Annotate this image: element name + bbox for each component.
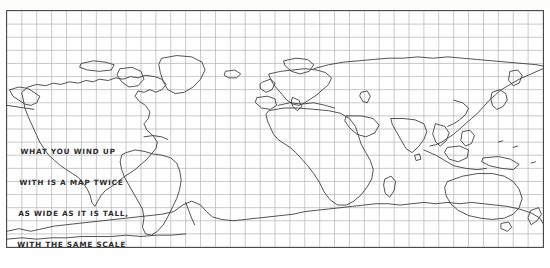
coastline-pacific-islands	[498, 141, 535, 163]
coastline-sumatra-java	[424, 150, 487, 170]
coastline-iberia	[256, 96, 277, 109]
world-map-frame: WHAT YOU WIND UP WITH IS A MAP TWICE AS …	[6, 10, 544, 248]
coastline-british-isles	[260, 79, 275, 92]
coastline-iceland	[224, 70, 240, 78]
coastline-layer	[7, 11, 543, 247]
coastline-greenland	[159, 56, 205, 94]
coastline-philippines	[461, 130, 474, 146]
coastline-madagascar	[384, 176, 396, 197]
coastline-caribbean	[144, 136, 168, 140]
coastline-caspian	[360, 91, 370, 103]
coastline-new-zealand	[528, 208, 541, 225]
coastline-arctic-islands	[80, 61, 114, 71]
coastline-asia-north	[314, 57, 543, 69]
coastline-mediterranean	[278, 103, 335, 108]
coastline-kamchatka	[509, 70, 522, 86]
coastline-india	[391, 119, 427, 153]
coastline-north-america	[22, 75, 166, 206]
coastline-new-guinea	[482, 157, 519, 170]
coastline-paths	[7, 56, 543, 240]
coastline-japan	[491, 90, 507, 110]
paper-margin	[0, 0, 550, 9]
coastline-south-america	[120, 150, 181, 235]
coastline-asia-east	[430, 69, 543, 146]
coastline-aleutians	[7, 105, 34, 109]
coastline-sri-lanka	[415, 154, 421, 161]
figure-canvas: WHAT YOU WIND UP WITH IS A MAP TWICE AS …	[0, 0, 550, 268]
coastline-antarctic-peninsula	[186, 202, 195, 224]
coastline-antarctica-inner	[7, 234, 186, 239]
coastline-antarctica	[7, 201, 543, 231]
coastline-africa	[266, 108, 373, 205]
coastline-svg	[7, 11, 543, 247]
coastline-china-korea	[448, 100, 469, 126]
coastline-tasmania	[501, 222, 511, 231]
coastline-borneo	[445, 146, 469, 162]
coastline-scandinavia	[284, 58, 314, 74]
coastline-australia	[445, 174, 522, 220]
